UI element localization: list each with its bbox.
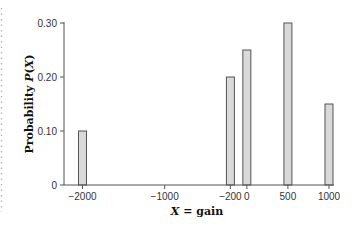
y-tick-label: 0.20 [38,72,58,83]
bars [79,23,334,185]
x-tick-label: 1000 [318,191,341,202]
y-tick-label: 0.30 [38,18,58,29]
bar-500 [284,23,292,185]
x-tick-label: −200 [219,191,242,202]
y-axis-title-prefix: Probability [23,82,36,154]
x-tick-label: 0 [244,191,250,202]
probability-bar-chart: 00.100.200.30 −2000−1000−20005001000 Pro… [0,0,352,230]
x-axis-title-var: X [170,205,180,218]
bar-1000 [325,104,333,185]
y-axis-title: Probability P(X) [23,54,36,153]
x-tick-label: −2000 [68,191,97,202]
x-axis: −2000−1000−20005001000 [64,185,341,202]
bar-0 [243,50,251,185]
bar--200 [226,77,234,185]
y-axis: 00.100.200.30 [38,18,64,191]
x-tick-label: −1000 [151,191,180,202]
x-tick-label: 500 [280,191,297,202]
x-axis-title-rest: = gain [179,205,223,218]
y-axis-title-close: ) [23,54,36,59]
bar--2000 [79,131,87,185]
x-axis-title: X = gain [170,205,223,218]
y-axis-title-x: X [23,59,36,69]
y-tick-label: 0.10 [38,126,58,137]
y-tick-label: 0 [51,180,57,191]
